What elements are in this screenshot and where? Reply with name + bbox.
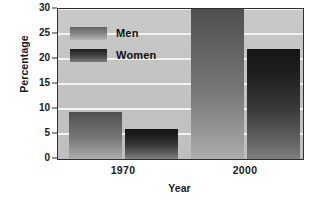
y-axis-tick-labels: 0 5 10 15 20 25 30: [28, 8, 50, 158]
legend-item-men: Men: [70, 22, 157, 44]
bar-men-1970: [69, 112, 122, 160]
chart-legend: Men Women: [70, 22, 157, 66]
bar-men-2000: [191, 9, 244, 159]
legend-item-women: Women: [70, 44, 157, 66]
bar-women-1970: [125, 129, 178, 159]
y-tick-label-15: 15: [28, 78, 50, 88]
y-tick-label-25: 25: [28, 28, 50, 38]
y-tick-label-5: 5: [28, 128, 50, 138]
bar-women-2000: [247, 49, 300, 159]
y-tick-label-0: 0: [28, 153, 50, 163]
plot-area: Men Women: [57, 8, 304, 160]
legend-swatch-women-icon: [70, 49, 107, 62]
y-tick-label-30: 30: [28, 3, 50, 13]
x-tick-label-2000: 2000: [233, 164, 258, 176]
plot-inner: Men Women: [58, 9, 303, 159]
y-tick-label-10: 10: [28, 103, 50, 113]
bar-chart-figure: Percentage 0 5 10 15 20 25 30: [0, 0, 319, 201]
x-axis-title: Year: [57, 182, 302, 194]
x-tick-label-1970: 1970: [111, 164, 136, 176]
legend-label-women: Women: [116, 50, 157, 61]
legend-label-men: Men: [116, 28, 139, 39]
gridline-30: [58, 8, 303, 10]
legend-swatch-men-icon: [70, 27, 107, 40]
y-tick-label-20: 20: [28, 53, 50, 63]
